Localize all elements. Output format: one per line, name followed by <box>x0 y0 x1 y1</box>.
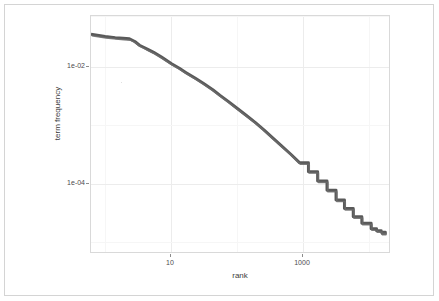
x-tick-mark-10 <box>170 254 171 257</box>
x-tick-label-10: 10 <box>166 259 174 267</box>
series-term-frequency <box>91 16 389 252</box>
y-tick-label-1e-04: 1e-04 <box>67 179 85 187</box>
chart-figure: term frequency 1e-02 1e-04 10 <box>0 0 439 301</box>
y-axis-tick-labels: 1e-02 1e-04 <box>52 15 85 253</box>
y-tick-label-1e-02: 1e-02 <box>67 62 85 70</box>
x-tick-label-1000: 1000 <box>294 259 310 267</box>
x-tick-mark-1000 <box>302 254 303 257</box>
plot-panel <box>90 15 390 253</box>
x-axis-tick-labels: 10 1000 <box>90 254 390 270</box>
x-axis-title: rank <box>90 271 390 280</box>
y-tick-mark-1e-04 <box>86 183 89 184</box>
y-tick-mark-1e-02 <box>86 66 89 67</box>
